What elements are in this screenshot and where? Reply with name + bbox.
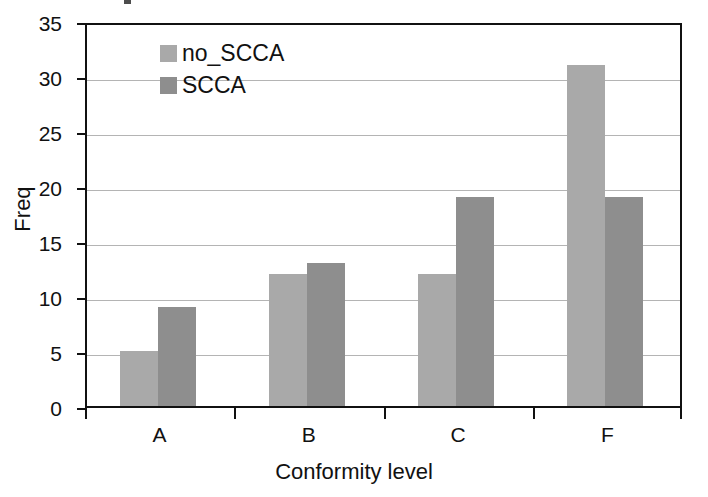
legend: no_SCCASCCA — [160, 37, 284, 101]
y-axis-tick-mark — [77, 353, 86, 355]
y-axis-tick-label: 25 — [39, 123, 62, 144]
x-axis-tick-label: F — [601, 423, 614, 447]
x-axis-tick-mark — [234, 408, 236, 419]
x-axis-tick-label: B — [302, 423, 316, 447]
y-axis-tick-label: 10 — [39, 288, 62, 309]
y-axis-tick-mark — [77, 23, 86, 25]
y-axis-tick-mark — [77, 298, 86, 300]
bar — [456, 197, 494, 406]
x-axis-title: Conformity level — [0, 459, 708, 485]
legend-label: no_SCCA — [182, 42, 284, 65]
y-axis-title: Freq — [10, 169, 36, 249]
legend-item: SCCA — [160, 69, 284, 101]
bar — [307, 263, 345, 406]
y-axis-tick-label: 35 — [39, 13, 62, 34]
y-axis-tick-label: 15 — [39, 233, 62, 254]
x-axis-tick-label: A — [153, 423, 167, 447]
legend-swatch-icon — [160, 77, 177, 94]
bar — [418, 274, 456, 406]
bar — [567, 65, 605, 406]
y-axis-tick-label: 30 — [39, 68, 62, 89]
y-axis-tick-label: 20 — [39, 178, 62, 199]
y-axis-tick-mark — [77, 243, 86, 245]
y-axis-tick-label: 5 — [50, 343, 62, 364]
legend-label: SCCA — [182, 74, 246, 97]
bar — [158, 307, 196, 406]
legend-item: no_SCCA — [160, 37, 284, 69]
y-axis-tick-mark — [77, 78, 86, 80]
bar — [120, 351, 158, 406]
bar — [605, 197, 643, 406]
legend-swatch-icon — [160, 45, 177, 62]
x-axis-tick-mark — [533, 408, 535, 419]
x-axis-tick-mark — [680, 408, 682, 419]
bar — [269, 274, 307, 406]
top-edge-artifact — [124, 0, 131, 4]
y-axis-tick-mark — [77, 408, 86, 410]
bar-chart: 05101520253035 Freq ABCF Conformity leve… — [0, 0, 708, 497]
y-axis-tick-mark — [77, 133, 86, 135]
x-axis-tick-mark — [384, 408, 386, 419]
x-axis-tick-label: C — [451, 423, 466, 447]
y-axis-tick-label: 0 — [50, 398, 62, 419]
y-axis-tick-mark — [77, 188, 86, 190]
